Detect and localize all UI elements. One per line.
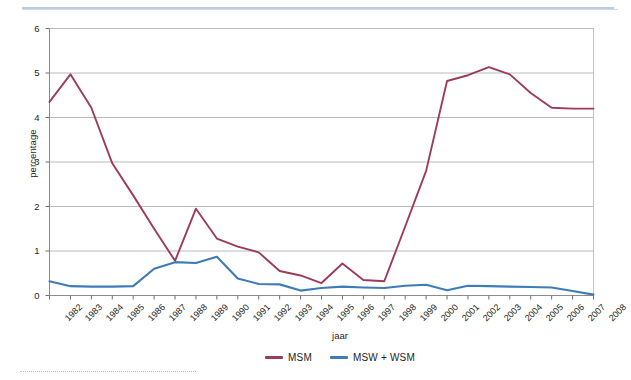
series-line-msw-wsm [50, 257, 594, 295]
legend-item-msm[interactable]: MSM [265, 352, 312, 363]
legend-label: MSM [288, 352, 312, 363]
legend-swatch-icon [330, 356, 348, 359]
legend-item-msw-wsm[interactable]: MSW + WSM [330, 352, 415, 363]
chart-legend: MSMMSW + WSM [0, 352, 631, 363]
legend-label: MSW + WSM [353, 352, 415, 363]
footer-dotted-rule [20, 371, 196, 373]
legend-swatch-icon [265, 356, 283, 359]
